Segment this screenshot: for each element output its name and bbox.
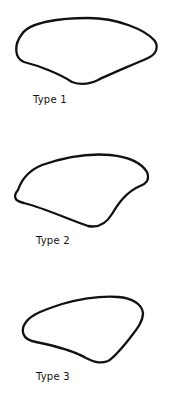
shape-type-1-label: Type 1 xyxy=(33,94,67,105)
shape-diagram xyxy=(0,0,171,397)
shape-type-2-outline xyxy=(15,154,148,226)
shape-type-2-label: Type 2 xyxy=(36,235,70,246)
shape-type-1-outline xyxy=(16,18,156,84)
shape-type-3-label: Type 3 xyxy=(36,371,70,382)
shape-type-3-outline xyxy=(23,297,143,363)
